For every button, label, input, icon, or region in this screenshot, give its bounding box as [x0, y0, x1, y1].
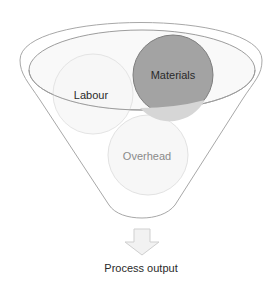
funnel-diagram: Materials Labour Overhead Process output: [0, 0, 275, 284]
labour-label: Labour: [74, 89, 109, 101]
process-output-label: Process output: [104, 262, 177, 274]
materials-label: Materials: [151, 69, 196, 81]
overhead-label: Overhead: [123, 150, 171, 162]
down-arrow-icon: [125, 229, 159, 255]
